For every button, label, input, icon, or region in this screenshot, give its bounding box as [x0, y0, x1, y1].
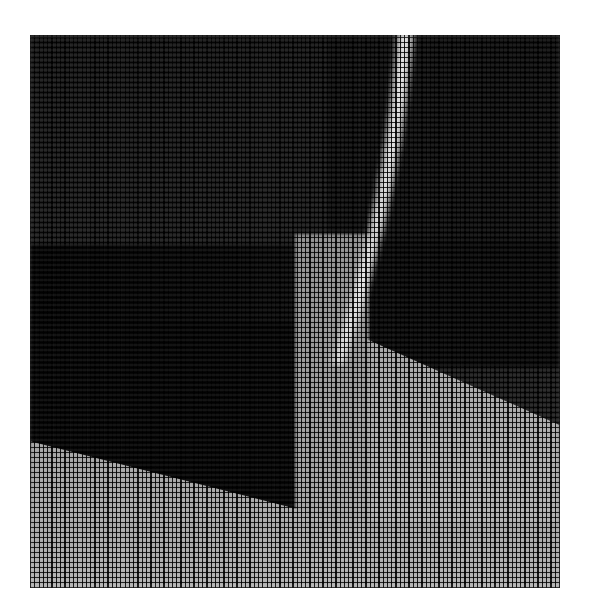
streak-slice — [329, 358, 348, 366]
image-canvas — [0, 0, 590, 616]
underlying-photograph — [30, 35, 560, 588]
region-bright-streak — [30, 35, 560, 588]
halftone-plate — [30, 35, 560, 588]
